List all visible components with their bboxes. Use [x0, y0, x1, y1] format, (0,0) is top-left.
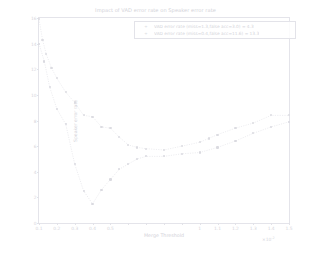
x-axis-tick-label: 0.2	[53, 226, 60, 231]
data-point	[74, 101, 76, 103]
legend-item: + VAD error rate (miss=0.4,false acc=11.…	[138, 30, 292, 37]
x-axis-tick-mark	[75, 223, 76, 225]
x-axis-offset-label: ×10-2	[262, 236, 275, 242]
x-axis-tick-mark	[110, 223, 111, 225]
x-axis-tick-label: 0.4	[89, 226, 96, 231]
x-axis-tick-mark	[271, 223, 272, 225]
data-point	[100, 126, 102, 128]
data-point	[38, 43, 40, 45]
data-point	[216, 146, 218, 148]
x-axis-tick-label: 1	[198, 226, 201, 231]
series-lines	[39, 18, 289, 223]
data-point	[74, 163, 76, 165]
legend-label: VAD error rate (miss=1.3,false acc=3.0) …	[154, 24, 254, 29]
y-axis-tick-label: 10	[31, 92, 37, 97]
x-axis-tick-mark	[200, 223, 201, 225]
x-axis-label: Merge Threshold	[39, 233, 289, 238]
data-point	[56, 108, 58, 110]
data-point	[109, 178, 111, 180]
x-axis-tick-mark	[57, 223, 58, 225]
chart-title: Impact of VAD error rate on Speaker erro…	[0, 7, 311, 13]
data-point	[288, 121, 290, 123]
data-point	[91, 203, 93, 205]
x-axis-tick-label: 0.1	[36, 226, 43, 231]
y-axis-tick-label: 14	[31, 41, 37, 46]
data-point	[216, 134, 218, 136]
data-point	[91, 116, 93, 118]
x-axis-tick-label: 0.3	[71, 226, 78, 231]
data-point	[234, 127, 236, 129]
data-point	[181, 153, 183, 155]
data-point	[109, 127, 111, 129]
x-axis-tick-mark	[39, 223, 40, 225]
data-point	[100, 189, 102, 191]
y-axis-tick-label: 16	[31, 16, 37, 21]
x-axis-tick-mark	[235, 223, 236, 225]
data-point	[136, 146, 138, 148]
offset-base: ×10	[262, 237, 271, 242]
legend-marker-icon: +	[138, 24, 154, 29]
x-axis-tick-label: 1.3	[250, 226, 257, 231]
offset-exponent: -2	[271, 236, 274, 240]
data-point	[50, 67, 52, 69]
legend-marker-icon: +	[138, 31, 154, 36]
x-axis-tick-label: 1.2	[232, 226, 239, 231]
data-point	[83, 190, 85, 192]
x-axis-tick-mark	[182, 223, 183, 225]
chart-figure: Impact of VAD error rate on Speaker erro…	[0, 0, 311, 261]
x-axis-tick-label: 1.4	[268, 226, 275, 231]
x-axis-tick-label: 0.5	[107, 226, 114, 231]
x-axis-tick-mark	[289, 223, 290, 225]
x-axis-tick-mark	[253, 223, 254, 225]
x-axis-tick-label: 1.1	[214, 226, 221, 231]
x-axis-tick-mark	[218, 223, 219, 225]
y-axis-tick-label: 12	[31, 67, 37, 72]
data-point	[41, 39, 43, 41]
x-axis-tick-mark	[146, 223, 147, 225]
data-point	[208, 137, 210, 139]
x-axis-tick-mark	[93, 223, 94, 225]
legend-label: VAD error rate (miss=0.4,false acc=11.6)…	[154, 31, 259, 36]
data-point	[199, 151, 201, 153]
data-point	[234, 140, 236, 142]
x-axis-tick-mark	[164, 223, 165, 225]
plot-area: Speaker error rate Merge Threshold 02468…	[38, 17, 290, 224]
chart-legend: + VAD error rate (miss=1.3,false acc=3.0…	[134, 21, 296, 39]
x-axis-tick-label: 1.5	[286, 226, 293, 231]
x-axis-tick-mark	[128, 223, 129, 225]
